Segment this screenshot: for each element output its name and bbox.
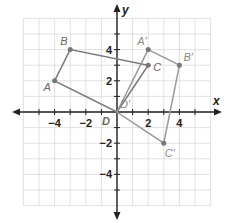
x-axis-right-arrow-icon — [214, 109, 222, 116]
vertex-point-image — [177, 63, 182, 68]
vertex-point-original — [52, 78, 57, 83]
vertex-point-original — [68, 47, 73, 52]
x-tick-label: 2 — [145, 117, 151, 129]
vertex-point-image — [146, 47, 151, 52]
vertex-label-image: D′ — [120, 98, 131, 110]
vertex-label-original: A — [43, 81, 51, 93]
y-axis-up-arrow-icon — [114, 4, 121, 12]
vertex-point-original — [146, 63, 151, 68]
vertex-label-original: D — [102, 115, 110, 127]
y-tick-label: 2 — [106, 75, 112, 87]
vertex-label-original: B — [60, 35, 67, 47]
y-tick-label: 4 — [106, 44, 113, 56]
x-axis-label: x — [212, 94, 221, 108]
vertex-label-image: B′ — [183, 51, 193, 63]
x-tick-label: 4 — [176, 117, 183, 129]
y-axis-label: y — [121, 3, 130, 17]
coordinate-plane: x y −4−22442−2−4 ABCDA′B′C′D′ — [0, 0, 232, 223]
x-tick-label: −4 — [48, 117, 61, 129]
x-tick-label: −2 — [80, 117, 93, 129]
y-tick-label: −4 — [99, 168, 112, 180]
vertex-label-original: C — [153, 61, 161, 73]
y-tick-label: −2 — [99, 137, 112, 149]
vertex-label-image: C′ — [165, 147, 176, 159]
vertex-point-image — [161, 141, 166, 146]
y-axis-down-arrow-icon — [114, 212, 121, 220]
x-axis-left-arrow-icon — [12, 109, 20, 116]
vertex-label-image: A′ — [136, 35, 147, 47]
